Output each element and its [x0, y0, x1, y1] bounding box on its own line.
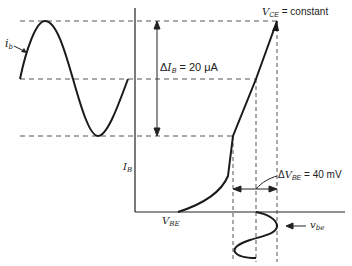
delta-vbe-leader: [256, 176, 277, 189]
ib-signal-label: ib: [5, 38, 13, 51]
delta-ib-label: ΔIB = 20 μA: [160, 62, 218, 74]
arrowhead-right-icon: [269, 186, 277, 192]
arrowhead-left-icon: [286, 223, 293, 229]
ib-axis-label: IB: [123, 162, 132, 174]
arrowhead-up-icon: [154, 21, 160, 29]
arrowhead-down-icon: [154, 128, 160, 136]
vbe-axis-label: VBE: [162, 216, 180, 228]
vbe-label-arrow: [286, 223, 306, 229]
delta-vbe-label: ΔVBE = 40 mV: [278, 170, 342, 181]
dashed-projection-lines: [20, 21, 277, 262]
delta-vbe-arrow: [233, 176, 277, 192]
axes: [135, 8, 345, 212]
vbe-signal-label: vbe: [310, 220, 324, 232]
vce-constant-label: VCE = constant: [262, 7, 328, 18]
arrowhead-left-icon: [233, 186, 241, 192]
